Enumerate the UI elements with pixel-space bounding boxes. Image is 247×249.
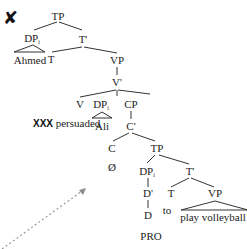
node-t-head-embedded: T: [168, 187, 175, 199]
node-c-head: C: [108, 142, 115, 154]
node-v-head: V: [76, 98, 84, 110]
node-vp-embedded: VP: [208, 187, 222, 199]
node-vp: VP: [110, 54, 124, 66]
node-t-bar-embedded: T': [186, 165, 195, 177]
leaf-ali: Ali: [95, 120, 109, 132]
placeholder-xxx-label: XXX: [33, 118, 53, 129]
node-c-bar: C': [126, 120, 135, 132]
leaf-to: to: [163, 204, 172, 216]
node-dp-embedded: DPi: [139, 165, 155, 178]
node-tp-embedded: TP: [151, 142, 164, 154]
node-dp-object: DPi: [93, 98, 109, 111]
node-d-head: D: [144, 209, 152, 221]
dashed-pointer-arrow-icon: [2, 188, 86, 249]
tree-edges: [14, 22, 247, 210]
leaf-ahmed: Ahmed: [14, 54, 47, 66]
ungrammatical-x-icon: ✘: [3, 7, 18, 28]
leaf-null-complementizer: Ø: [108, 161, 116, 173]
syntax-tree-diagram: ✘ TP DPi Ahmed: [0, 0, 247, 249]
node-cp: CP: [124, 98, 137, 110]
leaf-play-volleyball: play volleyball: [180, 211, 246, 223]
leaf-pro: PRO: [140, 230, 161, 242]
node-t-head: T: [48, 53, 55, 65]
node-dp-subject: DPi: [24, 32, 40, 45]
node-v-bar: V': [112, 76, 122, 88]
node-t-bar: T': [79, 33, 88, 45]
node-d-bar: D': [143, 187, 153, 199]
node-tp-root: TP: [52, 10, 65, 22]
